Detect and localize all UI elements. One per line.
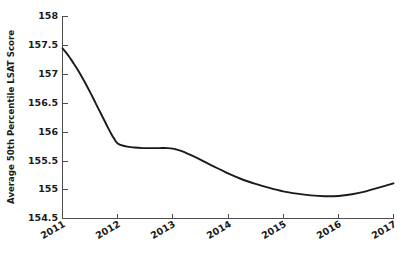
y-tick-label: 156 [38,126,58,137]
x-tick-label: 2017 [370,218,398,241]
y-axis-title: Average 50th Percentile LSAT Score [6,30,16,204]
y-tick-marks [63,17,68,219]
x-tick-label: 2012 [94,218,122,241]
y-tick-label: 158 [38,10,58,21]
y-tick-label: 155.5 [28,155,58,166]
lsat-score-series-line [63,48,394,196]
y-tick-label: 157.5 [28,39,58,50]
x-tick-labels: 2011 2012 2013 2014 2015 2016 2017 [39,218,398,241]
y-tick-label: 156.5 [28,97,58,108]
x-tick-marks [63,214,394,219]
y-tick-labels: 158 157.5 157 156.5 156 155.5 155 154.5 [28,10,58,223]
x-tick-label: 2016 [315,218,344,241]
x-tick-label: 2015 [260,218,288,241]
y-tick-label: 154.5 [28,212,58,223]
chart-canvas: 158 157.5 157 156.5 156 155.5 155 154.5 … [0,0,416,258]
x-tick-label: 2014 [205,218,234,241]
y-tick-label: 155 [38,183,58,194]
lsat-score-line-chart: 158 157.5 157 156.5 156 155.5 155 154.5 … [0,0,416,258]
x-tick-label: 2013 [149,218,177,241]
y-tick-label: 157 [38,68,58,79]
